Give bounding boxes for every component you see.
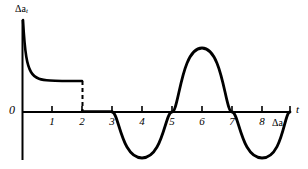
figure-container: Δat 0 1 2 3 4 5 6 7 8 Δat t xyxy=(0,0,308,169)
axis-end-label-subscript: t xyxy=(283,121,285,129)
y-axis-label: Δat xyxy=(15,4,28,15)
x-tick-label-7: 7 xyxy=(224,116,240,127)
curve-sinusoid xyxy=(112,48,290,158)
x-tick-label-3: 3 xyxy=(104,116,120,127)
x-tick-label-1: 1 xyxy=(44,116,60,127)
x-tick-label-5: 5 xyxy=(164,116,180,127)
x-tick-label-8: 8 xyxy=(254,116,270,127)
axis-end-label-text: Δa xyxy=(272,117,283,128)
x-axis-label: t xyxy=(296,104,299,115)
x-tick-label-6: 6 xyxy=(194,116,210,127)
axis-end-label: Δat xyxy=(272,118,285,129)
x-tick-label-4: 4 xyxy=(134,116,150,127)
y-axis-label-subscript: t xyxy=(26,7,28,15)
plot-svg xyxy=(0,0,308,169)
y-axis-label-text: Δa xyxy=(15,3,26,14)
x-tick-label-2: 2 xyxy=(74,116,90,127)
origin-label: 0 xyxy=(9,104,15,116)
curve-impulse-decay xyxy=(23,20,82,81)
